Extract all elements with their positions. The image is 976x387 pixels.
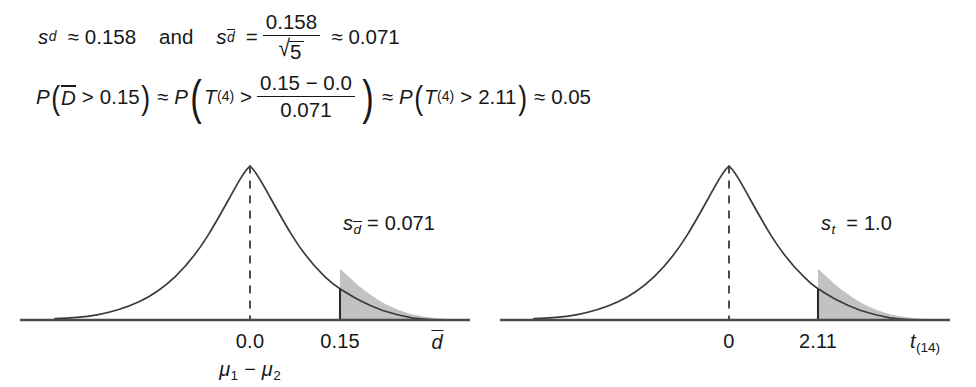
statistics-figure: sd ≈ 0.158 and sd = 0.158 √ 5 ≈ <box>0 0 976 387</box>
t-axis-subscript: (14) <box>916 340 940 355</box>
tick-label-mean-dbar: 0.0 <box>236 330 264 353</box>
normal-curve-t <box>534 166 928 320</box>
std-dev-subscript-t: t <box>832 222 836 237</box>
std-dev-symbol-t: s <box>821 212 831 234</box>
x-axis-label-t: t(14) <box>910 330 940 355</box>
t-axis-base: t <box>910 330 916 352</box>
std-dev-symbol-dbar: s <box>343 212 353 234</box>
shaded-tail-area-t <box>818 269 928 320</box>
std-dev-value-t: 1.0 <box>864 212 892 234</box>
dbar-distribution-chart <box>0 0 500 387</box>
normal-curve-dbar <box>55 166 450 320</box>
std-dev-value-dbar: 0.071 <box>385 212 435 234</box>
mu-subscript-2: 2 <box>273 368 281 383</box>
tick-label-cutoff-t: 2.11 <box>799 330 837 353</box>
x-axis-label-dbar: d <box>431 330 442 354</box>
std-dev-equals-t: = <box>846 212 858 234</box>
std-dev-equals-dbar: = <box>367 212 379 234</box>
dbar-axis-glyph: d <box>431 330 442 354</box>
t-distribution-chart <box>488 0 976 387</box>
minus-sign: − <box>244 358 256 380</box>
tick-label-mean-t: 0 <box>723 330 734 353</box>
mu-symbol-1: μ <box>219 358 230 380</box>
tick-label-cutoff-dbar: 0.15 <box>320 330 360 353</box>
plot-panel-dbar: sd=0.071 0.0 μ1−μ2 0.15 d <box>0 0 500 387</box>
std-dev-annotation-dbar: sd=0.071 <box>343 212 435 237</box>
plot-panel-t: st=1.0 0 2.11 t(14) <box>488 0 976 387</box>
shaded-tail-area-dbar <box>340 269 450 320</box>
std-dev-annotation-t: st=1.0 <box>821 212 892 237</box>
mu-symbol-2: μ <box>262 358 273 380</box>
mean-parameter-label-dbar: μ1−μ2 <box>219 358 281 383</box>
std-dev-subscript-dbar: d <box>354 221 362 237</box>
mu-subscript-1: 1 <box>231 368 239 383</box>
